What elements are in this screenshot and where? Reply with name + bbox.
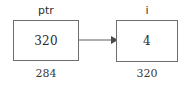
pointer-diagram-canvas: ptr 320 284 i 4 320 bbox=[0, 0, 192, 94]
address-label-i: 320 bbox=[116, 67, 178, 80]
memory-box-i: 4 bbox=[116, 20, 178, 62]
address-label-ptr: 284 bbox=[13, 67, 79, 80]
pointer-arrow-icon bbox=[78, 33, 118, 47]
variable-label-ptr: ptr bbox=[13, 4, 79, 17]
variable-label-i: i bbox=[116, 4, 178, 17]
memory-value-ptr: 320 bbox=[34, 34, 58, 48]
memory-value-i: 4 bbox=[143, 34, 151, 48]
memory-box-ptr: 320 bbox=[13, 20, 79, 61]
